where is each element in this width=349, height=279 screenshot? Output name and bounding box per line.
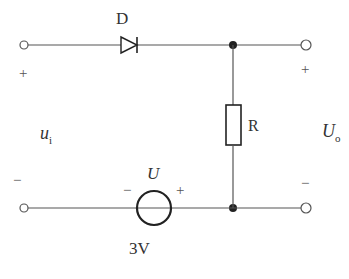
circuit-schematic xyxy=(0,0,349,279)
input-terminal-top xyxy=(20,41,28,49)
input-voltage-sub: i xyxy=(49,134,52,146)
diode-icon xyxy=(121,37,137,53)
output-voltage-label: Uo xyxy=(322,122,341,144)
input-minus-sign: − xyxy=(13,173,21,188)
circuit-diagram: D R U − + 3V + ui − + Uo − xyxy=(0,0,349,279)
output-terminal-top xyxy=(301,40,311,50)
input-voltage-main: u xyxy=(40,123,49,143)
output-minus-sign: − xyxy=(301,176,309,191)
resistor-icon xyxy=(226,105,241,145)
input-terminal-bottom xyxy=(20,204,28,212)
resistor-label: R xyxy=(248,118,259,134)
source-plus-sign: + xyxy=(176,183,184,198)
output-terminal-bottom xyxy=(301,203,311,213)
output-voltage-main: U xyxy=(322,121,335,141)
diode-label: D xyxy=(116,10,128,27)
input-plus-sign: + xyxy=(19,66,27,81)
output-plus-sign: + xyxy=(301,62,309,77)
source-minus-sign: − xyxy=(123,183,131,198)
output-voltage-sub: o xyxy=(335,132,341,144)
input-voltage-label: ui xyxy=(40,124,52,146)
source-value: 3V xyxy=(129,240,150,257)
source-label: U xyxy=(147,165,159,182)
